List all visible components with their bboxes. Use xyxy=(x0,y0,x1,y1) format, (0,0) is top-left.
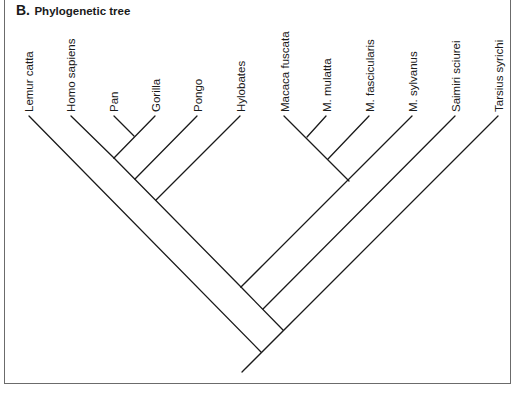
taxon-label: M. mulatta xyxy=(321,58,333,112)
tip-labels: Lemur catta Homo sapiens Pan Gorilla Pon… xyxy=(23,31,505,112)
branch-m-mulatta xyxy=(307,116,326,137)
branch-homo-sapiens xyxy=(71,116,114,158)
branch-hylobates xyxy=(156,116,240,200)
branch-tarsius-syrichi xyxy=(242,116,498,372)
taxon-label: Lemur catta xyxy=(23,51,35,112)
phylogenetic-tree: Lemur catta Homo sapiens Pan Gorilla Pon… xyxy=(0,0,519,394)
taxon-label: M. sylvanus xyxy=(407,51,419,112)
branch-catarrhine-stem xyxy=(241,287,283,330)
taxon-label: Saimiri sciurei xyxy=(450,40,462,112)
taxon-label: Tarsius syrichi xyxy=(493,40,505,112)
taxon-label: Gorilla xyxy=(150,78,162,112)
branch-m-fascicularis xyxy=(328,116,369,159)
taxon-label: Hylobates xyxy=(235,61,247,112)
branch-lemur-catta xyxy=(29,116,261,352)
taxon-label: Pan xyxy=(108,92,120,112)
taxon-label: Macaca fuscata xyxy=(279,31,291,112)
taxon-label: Pongo xyxy=(192,79,204,112)
branch-pongo xyxy=(135,116,197,179)
branch-saimiri-sciurei xyxy=(263,116,455,309)
tree-branches xyxy=(29,116,498,372)
branch-pan xyxy=(114,116,134,136)
taxon-label: M. fascicularis xyxy=(364,39,376,112)
taxon-label: Homo sapiens xyxy=(65,38,77,112)
branch-m-sylvanus xyxy=(241,116,412,287)
